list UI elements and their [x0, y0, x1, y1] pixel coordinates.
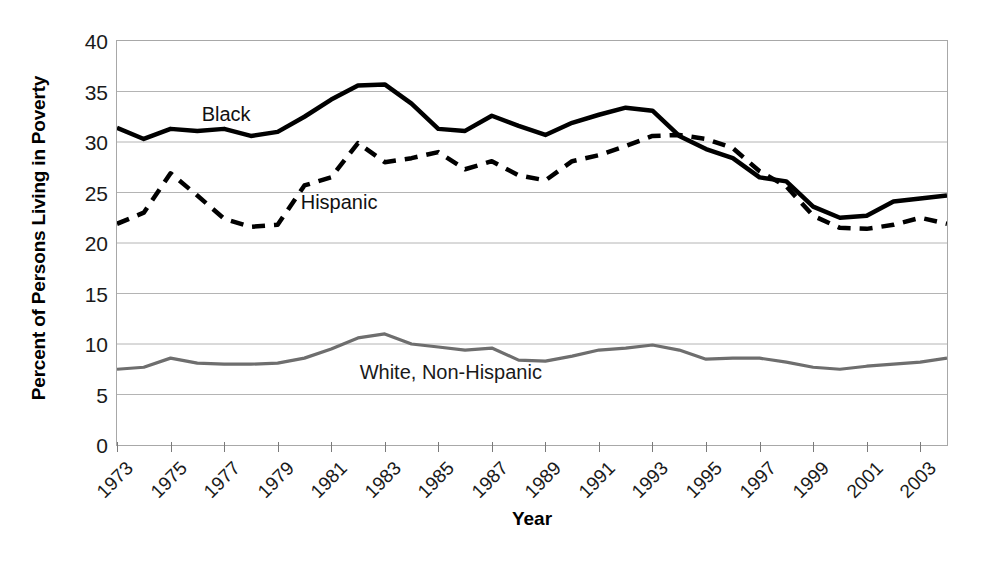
x-tick-label: 1999: [787, 458, 833, 504]
y-tick-label: 10: [56, 334, 108, 355]
series-label-black: Black: [202, 103, 251, 126]
chart-figure: Percent of Persons Living in Poverty 051…: [0, 0, 989, 563]
x-tick-mark: [438, 442, 439, 452]
x-tick-label: 1991: [572, 458, 618, 504]
x-tick-label: 1985: [412, 458, 458, 504]
y-tick-label: 15: [56, 283, 108, 304]
x-tick-label: 1987: [465, 458, 511, 504]
x-tick-mark: [117, 442, 118, 452]
x-tick-label: 2001: [840, 458, 886, 504]
x-tick-mark: [331, 442, 332, 452]
x-tick-label: 1983: [358, 458, 404, 504]
x-tick-mark: [599, 442, 600, 452]
y-tick-label: 0: [56, 435, 108, 456]
x-tick-label: 1995: [680, 458, 726, 504]
y-tick-label: 40: [56, 31, 108, 52]
x-tick-label: 1979: [251, 458, 297, 504]
x-tick-mark: [760, 442, 761, 452]
series-canvas: [117, 41, 947, 445]
x-tick-label: 1997: [733, 458, 779, 504]
x-tick-label: 1981: [305, 458, 351, 504]
y-tick-label: 25: [56, 182, 108, 203]
y-tick-label: 35: [56, 81, 108, 102]
x-tick-mark: [545, 442, 546, 452]
series-line-hispanic: [117, 135, 947, 229]
y-axis-tick-labels: 0510152025303540: [48, 40, 108, 446]
x-tick-mark: [813, 442, 814, 452]
x-tick-label: 2003: [894, 458, 940, 504]
x-tick-label: 1973: [90, 458, 136, 504]
series-label-hispanic: Hispanic: [301, 191, 378, 214]
plot-area: [116, 40, 948, 446]
x-axis-title: Year: [116, 508, 948, 530]
y-tick-label: 5: [56, 384, 108, 405]
x-axis-tick-labels: 1973197519771979198119831985198719891991…: [116, 452, 948, 512]
x-tick-mark: [171, 442, 172, 452]
x-tick-mark: [867, 442, 868, 452]
y-tick-label: 20: [56, 233, 108, 254]
series-label-white-non-hispanic: White, Non-Hispanic: [360, 361, 542, 384]
x-tick-label: 1993: [626, 458, 672, 504]
x-tick-mark: [278, 442, 279, 452]
x-tick-mark: [385, 442, 386, 452]
x-tick-label: 1975: [144, 458, 190, 504]
x-tick-mark: [706, 442, 707, 452]
y-tick-label: 30: [56, 132, 108, 153]
x-tick-mark: [652, 442, 653, 452]
x-tick-label: 1977: [198, 458, 244, 504]
x-tick-mark: [920, 442, 921, 452]
x-tick-label: 1989: [519, 458, 565, 504]
x-tick-mark: [492, 442, 493, 452]
x-tick-mark: [224, 442, 225, 452]
